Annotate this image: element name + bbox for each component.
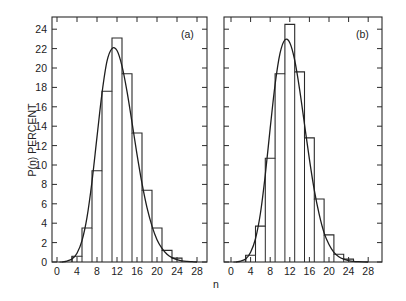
plot-frame xyxy=(52,17,207,262)
x-tick-label: 16 xyxy=(304,265,316,277)
x-tick-label: 8 xyxy=(267,265,273,277)
x-tick-label: 20 xyxy=(323,265,335,277)
x-tick-label: 8 xyxy=(94,265,100,277)
x-tick-label: 4 xyxy=(74,265,80,277)
y-tick-label: 10 xyxy=(35,159,47,171)
panel-label: (a) xyxy=(181,28,194,40)
x-tick-label: 12 xyxy=(284,265,296,277)
panel-a: 0481216202428024681012141618202224(a) xyxy=(35,17,207,277)
plot-frame xyxy=(224,17,382,262)
panel-label: (b) xyxy=(356,28,369,40)
y-tick-label: 16 xyxy=(35,101,47,113)
y-tick-label: 14 xyxy=(35,120,47,132)
y-tick-label: 4 xyxy=(41,217,47,229)
panel-b: 0481216202428(b) xyxy=(224,17,382,277)
y-tick-label: 6 xyxy=(41,198,47,210)
histogram-bars xyxy=(72,38,182,262)
y-tick-label: 22 xyxy=(35,43,47,55)
x-tick-label: 20 xyxy=(151,265,163,277)
x-tick-label: 0 xyxy=(54,265,60,277)
y-tick-label: 24 xyxy=(35,23,47,35)
figure: P(n) PERCENT n 0481216202428024681012141… xyxy=(0,0,406,301)
x-tick-label: 24 xyxy=(171,265,183,277)
y-tick-label: 18 xyxy=(35,81,47,93)
x-axis-label: n xyxy=(213,278,219,290)
x-tick-label: 24 xyxy=(343,265,355,277)
x-tick-label: 16 xyxy=(131,265,143,277)
x-tick-label: 28 xyxy=(191,265,203,277)
y-tick-label: 8 xyxy=(41,178,47,190)
histogram-bars xyxy=(246,24,354,262)
x-tick-label: 0 xyxy=(228,265,234,277)
chart-canvas: P(n) PERCENT n 0481216202428024681012141… xyxy=(0,0,406,301)
y-tick-label: 20 xyxy=(35,62,47,74)
x-tick-label: 28 xyxy=(362,265,374,277)
y-tick-label: 0 xyxy=(41,256,47,268)
y-tick-label: 12 xyxy=(35,140,47,152)
x-tick-label: 4 xyxy=(248,265,254,277)
x-tick-label: 12 xyxy=(111,265,123,277)
y-tick-label: 2 xyxy=(41,237,47,249)
